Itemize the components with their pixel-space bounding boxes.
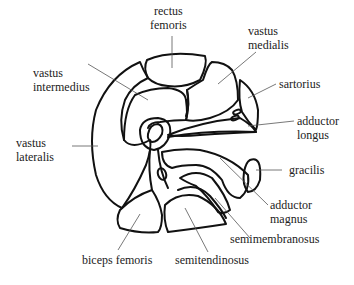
label-rectus-femoris: rectus femoris (150, 4, 187, 32)
label-line: intermedius (33, 80, 90, 94)
label-vastus-lateralis: vastus lateralis (16, 136, 54, 164)
label-line: adductor (270, 198, 312, 212)
label-biceps-femoris: biceps femoris (82, 253, 152, 267)
label-gracilis: gracilis (289, 163, 324, 177)
label-adductor-longus: adductor longus (297, 114, 339, 142)
thigh-cross-section-diagram: rectus femoris vastus medialis vastus in… (0, 0, 354, 285)
label-semitendinosus: semitendinosus (175, 253, 249, 267)
label-line: rectus (150, 4, 187, 18)
vastus-medialis-shape (186, 62, 238, 121)
label-line: vastus (33, 66, 90, 80)
label-line: magnus (270, 212, 312, 226)
label-line: medialis (248, 38, 289, 52)
label-vastus-intermedius: vastus intermedius (33, 66, 90, 94)
label-adductor-magnus: adductor magnus (270, 198, 312, 226)
sartorius-shape (239, 80, 258, 130)
rectus-femoris-shape (145, 54, 206, 87)
label-vastus-medialis: vastus medialis (248, 24, 289, 52)
label-line: adductor (297, 114, 339, 128)
label-line: lateralis (16, 150, 54, 164)
label-line: vastus (248, 24, 289, 38)
gracilis-shape (244, 159, 261, 192)
label-line: femoris (150, 18, 187, 32)
label-line: longus (297, 128, 339, 142)
label-line: vastus (16, 136, 54, 150)
biceps-femoris-shape (118, 190, 163, 233)
label-semimembranosus: semimembranosus (230, 232, 319, 246)
label-sartorius: sartorius (279, 77, 320, 91)
